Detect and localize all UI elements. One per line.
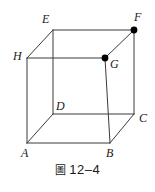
cube-edge-fg [105, 30, 134, 58]
vertex-label-d: D [56, 100, 65, 112]
vertex-label-e: E [42, 13, 49, 25]
figure-caption: 圖 12–4 [0, 162, 155, 179]
caption-number: 12–4 [69, 162, 100, 177]
cube-edge-da [27, 114, 53, 143]
vertex-label-c: C [139, 112, 147, 124]
vertex-label-g: G [110, 58, 119, 70]
cube-diagram [0, 0, 155, 170]
cube-edge-he [27, 30, 53, 58]
cube-edge-bc [110, 114, 134, 143]
vertex-label-h: H [13, 50, 22, 62]
marked-point-f [131, 27, 138, 34]
caption-figure-word: 圖 [55, 164, 66, 177]
cube-edges [27, 30, 134, 143]
vertex-label-b: B [106, 147, 113, 159]
vertex-label-f: F [134, 11, 141, 23]
vertex-label-a: A [21, 147, 28, 159]
figure-container: A B C D E F G H 圖 12–4 [0, 0, 155, 192]
marked-point-g [102, 55, 109, 62]
